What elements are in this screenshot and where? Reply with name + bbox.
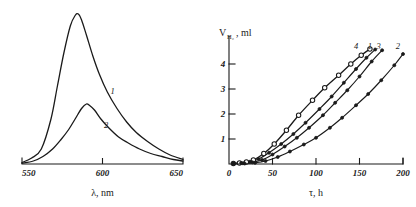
right-marker-4 [310, 98, 314, 102]
right-marker-3 [321, 114, 324, 117]
right-xtick-0: 0 [227, 168, 232, 178]
left-curve-2 [22, 104, 183, 163]
right-curve-label-3: 3 [376, 41, 381, 51]
right-marker-1 [280, 143, 283, 146]
left-x-tick-labels: 550600650 [22, 168, 184, 178]
right-marker-2 [393, 64, 396, 67]
right-marker-3 [358, 75, 361, 78]
right-marker-4 [262, 151, 266, 155]
right-marker-4 [296, 113, 300, 117]
right-marker-1 [257, 158, 260, 161]
left-x-axis-title: λ, nm [91, 187, 114, 198]
left-curve-1 [22, 14, 183, 163]
right-marker-3 [346, 89, 349, 92]
right-marker-4 [284, 128, 288, 132]
right-chart-svg: 0501001502001234 4132 V H₂ , ml τ, h [205, 0, 416, 207]
right-marker-2 [380, 79, 383, 82]
right-marker-3 [295, 136, 298, 139]
right-marker-2 [341, 116, 344, 119]
right-marker-1 [365, 56, 368, 59]
right-marker-1 [292, 133, 295, 136]
right-marker-2 [315, 136, 318, 139]
right-marker-1 [318, 108, 321, 111]
right-marker-1 [268, 151, 271, 154]
right-curve-label-2: 2 [396, 41, 401, 51]
right-marker-4 [336, 73, 340, 77]
left-curve-label-2: 2 [104, 120, 109, 130]
panel-hydrogen-evolution-kinetics: 0501001502001234 4132 V H₂ , ml τ, h [205, 0, 416, 207]
right-xtick-100: 100 [309, 168, 323, 178]
right-marker-1 [355, 68, 358, 71]
figure-container: 12 550600650 λ, nm 0501001502001234 4132… [0, 0, 416, 207]
left-curve-label-1: 1 [111, 86, 115, 96]
right-marker-1 [304, 121, 307, 124]
left-xtick-650: 650 [170, 168, 184, 178]
left-xtick-600: 600 [96, 168, 110, 178]
right-y-axis-subscript: H₂ [227, 33, 234, 40]
left-curve-group: 12 [22, 14, 183, 164]
right-xtick-50: 50 [268, 168, 278, 178]
right-marker-2 [264, 160, 267, 163]
right-marker-4 [323, 86, 327, 90]
right-marker-3 [381, 49, 384, 52]
right-marker-2 [367, 93, 370, 96]
right-marker-4 [359, 53, 363, 57]
right-tick-group [229, 64, 403, 164]
right-curve-labels: 4132 [354, 41, 401, 51]
right-marker-3 [261, 159, 264, 162]
panel-fluorescence-spectra: 12 550600650 λ, nm [0, 0, 205, 207]
right-marker-4 [272, 142, 276, 146]
right-ytick-3: 3 [220, 84, 226, 94]
right-ytick-2: 2 [220, 109, 226, 119]
right-marker-1 [342, 81, 345, 84]
right-marker-group [231, 47, 404, 166]
right-curve-label-1: 1 [368, 41, 372, 51]
right-ytick-1: 1 [221, 134, 226, 144]
right-y-axis-title: V [219, 27, 227, 38]
right-ytick-4: 4 [220, 59, 226, 69]
right-marker-2 [402, 53, 405, 56]
right-marker-3 [283, 145, 286, 148]
right-x-axis-title: τ, h [309, 187, 323, 198]
left-xtick-550: 550 [22, 168, 36, 178]
right-xtick-150: 150 [353, 168, 367, 178]
right-marker-2 [276, 156, 279, 159]
left-x-axis [22, 158, 183, 164]
right-marker-3 [271, 153, 274, 156]
right-curve-3 [233, 50, 382, 163]
right-marker-1 [330, 95, 333, 98]
right-marker-2 [302, 143, 305, 146]
left-chart-svg: 12 550600650 λ, nm [0, 0, 205, 207]
right-marker-3 [370, 60, 373, 63]
right-marker-3 [334, 101, 337, 104]
right-marker-4 [349, 62, 353, 66]
right-marker-2 [328, 126, 331, 129]
right-marker-2 [355, 104, 358, 107]
right-curve-label-4: 4 [354, 41, 359, 51]
right-marker-2 [288, 150, 291, 153]
right-marker-3 [308, 126, 311, 129]
right-curve-group [233, 49, 403, 164]
right-xtick-200: 200 [395, 168, 410, 178]
right-y-axis-unit: , ml [236, 27, 252, 38]
